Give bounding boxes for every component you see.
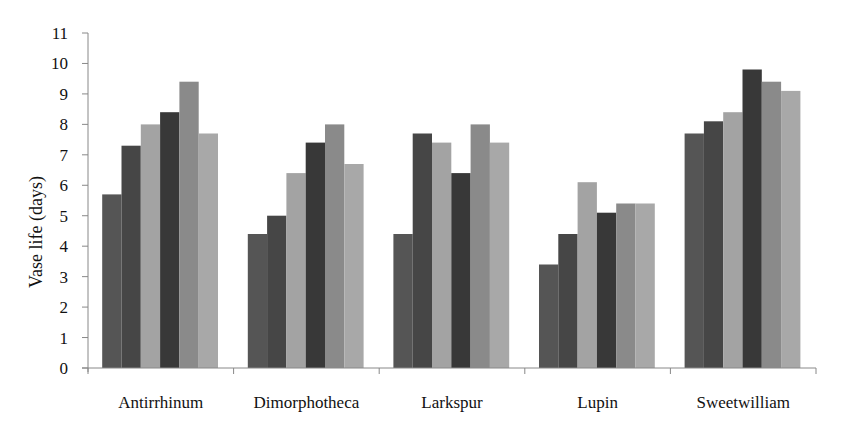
y-tick-label: 1 xyxy=(60,329,69,348)
bar-larkspur-1 xyxy=(393,234,412,368)
y-tick-label: 5 xyxy=(60,207,69,226)
bar-dimorphotheca-4 xyxy=(306,143,325,368)
bar-antirrhinum-5 xyxy=(179,82,198,368)
y-tick-label: 9 xyxy=(60,85,69,104)
bar-group-lupin xyxy=(539,182,655,368)
bar-dimorphotheca-1 xyxy=(248,234,267,368)
bar-sweetwilliam-5 xyxy=(762,82,781,368)
y-tick-label: 6 xyxy=(60,176,69,195)
bar-sweetwilliam-1 xyxy=(685,134,704,369)
bar-group-sweetwilliam xyxy=(685,70,801,369)
y-tick-label: 4 xyxy=(60,237,69,256)
bar-larkspur-6 xyxy=(490,143,509,368)
bar-larkspur-3 xyxy=(432,143,451,368)
bar-dimorphotheca-3 xyxy=(286,173,305,368)
bar-antirrhinum-3 xyxy=(141,124,160,368)
y-axis-title: Vase life (days) xyxy=(26,176,47,288)
bar-larkspur-2 xyxy=(413,134,432,369)
bar-group-antirrhinum xyxy=(102,82,218,368)
y-tick-label: 2 xyxy=(60,298,69,317)
bar-sweetwilliam-3 xyxy=(723,112,742,368)
y-tick-label: 3 xyxy=(60,268,69,287)
bar-chart: 01234567891011 AntirrhinumDimorphothecaL… xyxy=(0,0,845,438)
bar-sweetwilliam-6 xyxy=(781,91,800,368)
y-tick-label: 0 xyxy=(60,359,69,378)
x-tick-label-larkspur: Larkspur xyxy=(421,393,483,412)
bar-lupin-1 xyxy=(539,265,558,369)
y-tick-label: 8 xyxy=(60,115,69,134)
bar-group-larkspur xyxy=(393,124,509,368)
bar-lupin-6 xyxy=(636,204,655,369)
bar-sweetwilliam-2 xyxy=(704,121,723,368)
x-tick-label-dimorphotheca: Dimorphotheca xyxy=(254,393,360,412)
y-tick-label: 7 xyxy=(60,146,69,165)
bar-larkspur-4 xyxy=(451,173,470,368)
bar-sweetwilliam-4 xyxy=(743,70,762,369)
x-tick-label-sweetwilliam: Sweetwilliam xyxy=(696,393,789,412)
bar-dimorphotheca-5 xyxy=(325,124,344,368)
bar-group-dimorphotheca xyxy=(248,124,364,368)
y-tick-label: 11 xyxy=(52,24,68,43)
bar-lupin-2 xyxy=(558,234,577,368)
x-tick-label-lupin: Lupin xyxy=(577,393,618,412)
bar-antirrhinum-1 xyxy=(102,194,121,368)
bar-lupin-4 xyxy=(597,213,616,368)
bar-dimorphotheca-2 xyxy=(267,216,286,368)
bar-lupin-5 xyxy=(616,204,635,369)
bar-dimorphotheca-6 xyxy=(344,164,363,368)
bar-larkspur-5 xyxy=(471,124,490,368)
bar-antirrhinum-2 xyxy=(122,146,141,368)
bar-antirrhinum-4 xyxy=(160,112,179,368)
x-axis: AntirrhinumDimorphothecaLarkspurLupinSwe… xyxy=(82,368,816,412)
y-axis: 01234567891011 xyxy=(51,24,88,378)
bar-lupin-3 xyxy=(578,182,597,368)
x-tick-label-antirrhinum: Antirrhinum xyxy=(118,393,203,412)
bars-group xyxy=(102,70,800,369)
y-tick-label: 10 xyxy=(51,54,68,73)
bar-antirrhinum-6 xyxy=(199,134,218,369)
